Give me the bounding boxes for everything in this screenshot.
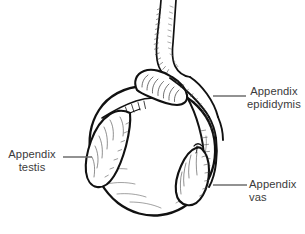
label-appendix-testis-line1: Appendix: [3, 148, 61, 161]
label-appendix-vas: Appendix vas: [249, 178, 296, 204]
anatomy-figure: Appendix epididymis Appendix testis Appe…: [0, 0, 305, 234]
label-appendix-testis-line2: testis: [3, 161, 61, 174]
label-appendix-vas-line1: Appendix: [249, 178, 296, 191]
label-appendix-epididymis: Appendix epididymis: [247, 85, 301, 111]
label-appendix-vas-line2: vas: [249, 191, 296, 204]
label-appendix-epididymis-line2: epididymis: [247, 98, 301, 111]
label-appendix-testis: Appendix testis: [3, 148, 61, 174]
label-appendix-epididymis-line1: Appendix: [247, 85, 301, 98]
